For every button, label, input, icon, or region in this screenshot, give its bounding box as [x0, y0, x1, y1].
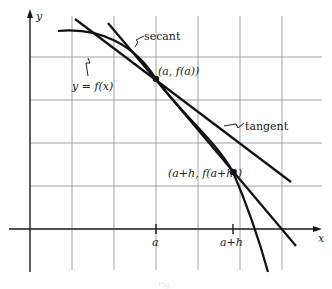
curve-label: y = f(x) [71, 80, 113, 93]
tangent-leader [224, 123, 244, 128]
y-axis-arrow-icon [27, 9, 33, 18]
tangent-label: tangent [245, 120, 289, 133]
x-axis-label: x [318, 232, 325, 245]
secant-line [108, 23, 296, 246]
figure-caption: Fig. [158, 281, 172, 289]
axes [9, 9, 322, 272]
secant-tangent-diagram: y x secant tangent y = f(x) (a, f(a)) (a… [0, 0, 332, 289]
point-a-plus-h-label: (a+h, f(a+h)) [168, 167, 242, 180]
tick-a-label: a [152, 236, 159, 249]
grid [30, 16, 322, 270]
point-a-label: (a, f(a)) [158, 65, 199, 78]
tangent-line [75, 19, 291, 182]
y-axis-label: y [35, 10, 43, 23]
secant-label: secant [144, 30, 181, 43]
curve-leader [86, 58, 90, 76]
tick-a-plus-h-label: a+h [220, 236, 243, 249]
secant-leader [135, 36, 144, 47]
